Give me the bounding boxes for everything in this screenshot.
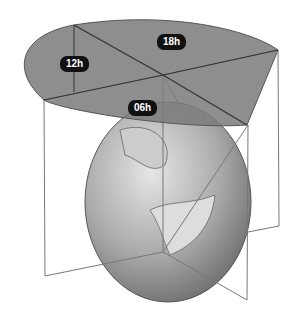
label-18h: 18h: [157, 34, 186, 50]
label-12h: 12h: [60, 56, 89, 72]
diagram-canvas: [0, 0, 295, 319]
label-06h: 06h: [128, 100, 157, 116]
globe: [85, 102, 251, 302]
